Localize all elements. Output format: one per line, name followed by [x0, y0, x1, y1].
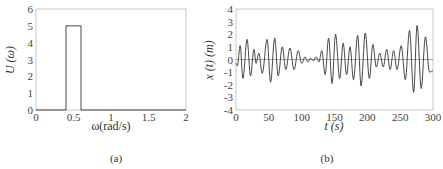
x-tick-label: 250 [392, 111, 409, 123]
x-tick-label: 0.5 [67, 111, 81, 123]
chart-b: -4-3-2-101234 050100150200250300 t (s) x… [202, 3, 442, 165]
x-tick-label: 1.5 [142, 111, 156, 123]
y-tick-label: 4 [228, 3, 234, 15]
x-axis-label-b: t (s) [325, 119, 344, 133]
y-tick-label: -3 [224, 91, 234, 103]
caption-b: (b) [321, 152, 334, 165]
y-tick-label: 6 [28, 3, 34, 15]
y-tick-label: 1 [28, 87, 34, 99]
y-tick-label: 2 [228, 28, 234, 40]
chart-a: 0123456 00.511.52 ω(rad/s) U (ω) (a) [3, 3, 189, 165]
y-tick-label: -1 [224, 66, 233, 78]
y-tick-label: 4 [28, 37, 34, 49]
plot-frame-a [36, 9, 186, 110]
y-tick-labels-b: -4-3-2-101234 [224, 3, 234, 116]
x-tick-label: 300 [425, 111, 442, 123]
y-tick-label: 1 [228, 41, 234, 53]
y-tick-label: 2 [28, 70, 34, 82]
y-tick-label: 0 [228, 54, 234, 66]
x-axis-label-a: ω(rad/s) [91, 119, 130, 133]
x-tick-label: 0 [233, 111, 239, 123]
x-tick-label: 0 [33, 111, 39, 123]
spectrum-line [36, 26, 186, 110]
y-tick-label: 3 [228, 16, 234, 28]
time-series-line [236, 25, 433, 92]
y-tick-label: 5 [28, 20, 34, 32]
y-tick-label: -2 [224, 79, 233, 91]
x-tick-label: 100 [293, 111, 310, 123]
y-axis-label-a: U (ω) [3, 46, 17, 74]
x-tick-label: 200 [359, 111, 376, 123]
x-tick-label: 2 [183, 111, 189, 123]
y-tick-label: 3 [28, 54, 34, 66]
figure: 0123456 00.511.52 ω(rad/s) U (ω) (a) -4-… [0, 0, 443, 169]
caption-a: (a) [110, 152, 123, 165]
y-tick-labels-a: 0123456 [28, 3, 34, 116]
y-tick-label: -4 [224, 104, 234, 116]
y-axis-label-b: x (t) (m) [202, 40, 216, 80]
x-tick-label: 50 [263, 111, 275, 123]
